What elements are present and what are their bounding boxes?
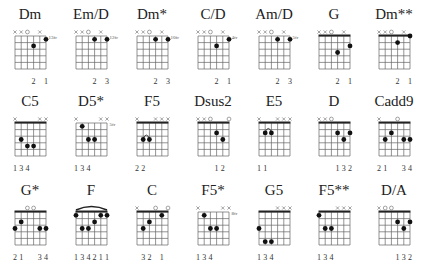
- muted-string-icon: [81, 30, 84, 33]
- finger-dot: [98, 213, 103, 218]
- finger-number: 3: [38, 253, 42, 262]
- finger-numbers: 22: [122, 162, 182, 174]
- fret-position-label: 5fr: [293, 35, 299, 40]
- finger-numbers: 132: [304, 162, 364, 174]
- muted-string-icon: [377, 30, 380, 33]
- muted-string-icon: [257, 117, 260, 120]
- open-string-icon: [209, 30, 213, 34]
- muted-string-icon: [377, 117, 380, 120]
- muted-string-icon: [288, 206, 291, 209]
- finger-dot: [323, 226, 328, 231]
- chord-diagram: C/D4fr21: [183, 6, 243, 94]
- muted-string-icon: [105, 117, 108, 120]
- finger-dot: [348, 44, 353, 49]
- muted-string-icon: [227, 206, 230, 209]
- finger-dot: [19, 137, 24, 142]
- finger-number: 4: [86, 164, 90, 173]
- fretboard-grid: 4fr: [183, 24, 243, 76]
- fretboard-grid: [0, 111, 60, 163]
- muted-string-icon: [264, 30, 267, 33]
- muted-string-icon: [221, 206, 224, 209]
- chord-name: Am/D: [244, 6, 304, 22]
- finger-number: 2: [93, 77, 97, 86]
- muted-string-icon: [74, 30, 77, 33]
- finger-number: 2: [13, 253, 17, 262]
- finger-dot: [147, 137, 152, 142]
- chord-name: F: [61, 182, 121, 198]
- finger-number: 1: [317, 253, 321, 262]
- open-string-icon: [166, 206, 170, 210]
- chord-name: F5*: [183, 182, 243, 198]
- chord-diagram: G21: [304, 6, 364, 94]
- finger-number: 4: [408, 164, 412, 173]
- muted-string-icon: [288, 117, 291, 120]
- muted-string-icon: [99, 30, 102, 33]
- chord-diagram: D5*5fr134: [61, 93, 121, 181]
- finger-number: 1: [196, 253, 200, 262]
- fret-position-label: 5fr: [110, 122, 116, 127]
- finger-number: 1: [336, 164, 340, 173]
- finger-dot: [348, 131, 353, 136]
- finger-number: 1: [215, 164, 219, 173]
- finger-numbers: 21: [183, 75, 243, 87]
- finger-number: 3: [19, 164, 23, 173]
- fretboard-grid: 5fr: [244, 24, 304, 76]
- finger-dot: [19, 220, 24, 225]
- finger-dot: [37, 226, 42, 231]
- finger-dot: [269, 131, 274, 136]
- finger-numbers: 321: [122, 251, 182, 263]
- muted-string-icon: [377, 206, 380, 209]
- finger-number: 4: [208, 253, 212, 262]
- muted-string-icon: [135, 117, 138, 120]
- finger-number: 3: [263, 253, 267, 262]
- chord-name: G5: [244, 182, 304, 198]
- finger-dot: [44, 226, 49, 231]
- finger-number: 1: [383, 164, 387, 173]
- finger-number: 3: [105, 77, 109, 86]
- muted-string-icon: [203, 117, 206, 120]
- muted-string-icon: [135, 30, 138, 33]
- chord-name: D: [304, 93, 364, 109]
- chord-name: C/D: [183, 6, 243, 22]
- muted-string-icon: [196, 206, 199, 209]
- finger-dot: [74, 213, 79, 218]
- finger-numbers: 134: [304, 251, 364, 263]
- finger-dot: [214, 131, 219, 136]
- finger-number: 1: [408, 77, 412, 86]
- muted-string-icon: [135, 206, 138, 209]
- finger-dot: [25, 144, 30, 149]
- muted-string-icon: [324, 30, 327, 33]
- chord-name: G: [304, 6, 364, 22]
- finger-dot: [408, 220, 413, 225]
- finger-number: 1: [348, 77, 352, 86]
- nut: [379, 122, 411, 124]
- finger-number: 3: [323, 253, 327, 262]
- chord-diagram: Dsus212: [183, 93, 243, 181]
- chord-name: E5: [244, 93, 304, 109]
- finger-number: 1: [263, 164, 267, 173]
- fretboard-grid: 12fr: [61, 24, 121, 76]
- nut: [137, 122, 169, 124]
- finger-dot: [288, 37, 293, 42]
- finger-number: 1: [160, 253, 164, 262]
- muted-string-icon: [402, 30, 405, 33]
- muted-string-icon: [20, 30, 23, 33]
- finger-dot: [227, 37, 232, 42]
- muted-string-icon: [196, 30, 199, 33]
- finger-number: 2: [135, 164, 139, 173]
- finger-dot: [395, 40, 400, 45]
- muted-string-icon: [38, 30, 41, 33]
- fretboard-grid: 5fr: [61, 111, 121, 163]
- chord-diagram: D/A132: [364, 182, 424, 269]
- muted-string-icon: [160, 30, 163, 33]
- finger-dot: [269, 239, 274, 244]
- finger-dot: [341, 137, 346, 142]
- finger-dot: [86, 137, 91, 142]
- finger-number: 4: [329, 253, 333, 262]
- fretboard-grid: [61, 200, 121, 252]
- fretboard-grid: [244, 200, 304, 252]
- muted-string-icon: [38, 117, 41, 120]
- finger-dot: [401, 137, 406, 142]
- finger-dot: [86, 226, 91, 231]
- finger-number: 1: [227, 77, 231, 86]
